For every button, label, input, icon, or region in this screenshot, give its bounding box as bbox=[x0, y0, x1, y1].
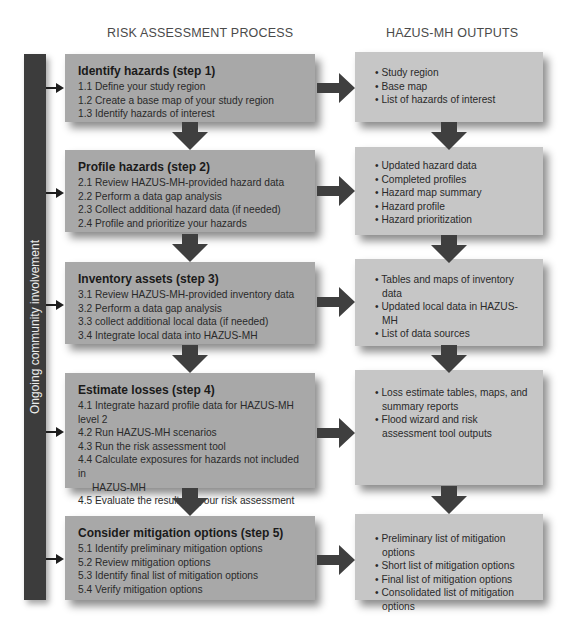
small-right-arrow-icon bbox=[46, 83, 64, 93]
step-item: 5.4 Verify mitigation options bbox=[78, 583, 305, 597]
down-arrow-icon bbox=[431, 345, 467, 373]
small-right-arrow-icon bbox=[46, 188, 64, 198]
step-item: 4.1 Integrate hazard profile data for HA… bbox=[78, 399, 305, 426]
step-item: 3.3 collect additional local data (if ne… bbox=[78, 315, 305, 329]
output-item: Loss estimate tables, maps, and summary … bbox=[375, 386, 533, 413]
down-arrow-icon bbox=[172, 488, 208, 516]
step-item: 1.2 Create a base map of your study regi… bbox=[78, 94, 305, 108]
step-title: Estimate losses (step 4) bbox=[78, 383, 305, 397]
community-involvement-label: Ongoing community involvement bbox=[28, 240, 42, 414]
output-item: Tables and maps of inventory data bbox=[375, 273, 533, 300]
step-item: 4.2 Run HAZUS-MH scenarios bbox=[78, 426, 305, 440]
step-item: 3.1 Review HAZUS-MH-provided inventory d… bbox=[78, 288, 305, 302]
step-item: 2.1 Review HAZUS-MH-provided hazard data bbox=[78, 176, 305, 190]
output-item: Study region bbox=[375, 66, 533, 80]
process-column-header: RISK ASSESSMENT PROCESS bbox=[107, 26, 293, 40]
output-item: List of data sources bbox=[375, 327, 533, 341]
right-arrow-icon bbox=[317, 418, 355, 448]
down-arrow-icon bbox=[431, 235, 467, 263]
right-arrow-icon bbox=[317, 545, 355, 575]
step-item: 5.2 Review mitigation options bbox=[78, 556, 305, 570]
down-arrow-icon bbox=[172, 122, 208, 150]
small-right-arrow-icon bbox=[46, 427, 64, 437]
down-arrow-icon bbox=[431, 486, 467, 514]
output-item: Base map bbox=[375, 80, 533, 94]
step-4-outputs-box: Loss estimate tables, maps, and summary … bbox=[355, 370, 543, 485]
step-5-box: Consider mitigation options (step 5) 5.1… bbox=[65, 516, 315, 600]
step-4-box: Estimate losses (step 4) 4.1 Integrate h… bbox=[65, 373, 315, 488]
step-title: Consider mitigation options (step 5) bbox=[78, 526, 305, 540]
step-item: 4.3 Run the risk assessment tool bbox=[78, 440, 305, 454]
output-item: Hazard map summary bbox=[375, 186, 533, 200]
output-item: List of hazards of interest bbox=[375, 93, 533, 107]
output-item: Completed profiles bbox=[375, 173, 533, 187]
step-title: Profile hazards (step 2) bbox=[78, 160, 305, 174]
right-arrow-icon bbox=[317, 287, 355, 317]
step-item: 3.4 Integrate local data into HAZUS-MH bbox=[78, 329, 305, 343]
step-2-outputs-box: Updated hazard data Completed profiles H… bbox=[355, 147, 543, 235]
output-item: Updated local data in HAZUS-MH bbox=[375, 300, 533, 327]
step-item: 2.4 Profile and prioritize your hazards bbox=[78, 217, 305, 231]
right-arrow-icon bbox=[317, 176, 355, 206]
step-item: 1.3 Identify hazards of interest bbox=[78, 107, 305, 121]
community-involvement-bar: Ongoing community involvement bbox=[24, 54, 46, 600]
step-title: Identify hazards (step 1) bbox=[78, 64, 305, 78]
output-item: Updated hazard data bbox=[375, 159, 533, 173]
small-right-arrow-icon bbox=[46, 554, 64, 564]
output-item: Consolidated list of mitigation options bbox=[375, 586, 533, 613]
step-2-box: Profile hazards (step 2) 2.1 Review HAZU… bbox=[65, 150, 315, 232]
output-item: Preliminary list of mitigation options bbox=[375, 532, 533, 559]
step-1-outputs-box: Study region Base map List of hazards of… bbox=[355, 52, 543, 122]
right-arrow-icon bbox=[317, 73, 355, 103]
down-arrow-icon bbox=[172, 234, 208, 262]
small-right-arrow-icon bbox=[46, 300, 64, 310]
output-item: Hazard prioritization bbox=[375, 213, 533, 227]
step-item: 3.2 Perform a data gap analysis bbox=[78, 302, 305, 316]
step-3-outputs-box: Tables and maps of inventory data Update… bbox=[355, 259, 543, 346]
down-arrow-icon bbox=[172, 345, 208, 373]
step-title: Inventory assets (step 3) bbox=[78, 272, 305, 286]
step-item: 4.4 Calculate exposures for hazards not … bbox=[78, 453, 305, 480]
step-item: 5.1 Identify preliminary mitigation opti… bbox=[78, 542, 305, 556]
step-item: 2.3 Collect additional hazard data (if n… bbox=[78, 203, 305, 217]
step-item: 2.2 Perform a data gap analysis bbox=[78, 190, 305, 204]
step-item: 5.3 Identify final list of mitigation op… bbox=[78, 569, 305, 583]
step-item: 1.1 Define your study region bbox=[78, 80, 305, 94]
output-item: Short list of mitigation options bbox=[375, 559, 533, 573]
step-5-outputs-box: Preliminary list of mitigation options S… bbox=[355, 514, 543, 600]
output-item: Flood wizard and risk assessment tool ou… bbox=[375, 413, 533, 440]
down-arrow-icon bbox=[431, 122, 467, 150]
step-3-box: Inventory assets (step 3) 3.1 Review HAZ… bbox=[65, 262, 315, 344]
outputs-column-header: HAZUS-MH OUTPUTS bbox=[386, 26, 518, 40]
output-item: Hazard profile bbox=[375, 200, 533, 214]
step-1-box: Identify hazards (step 1) 1.1 Define you… bbox=[65, 54, 315, 122]
output-item: Final list of mitigation options bbox=[375, 573, 533, 587]
